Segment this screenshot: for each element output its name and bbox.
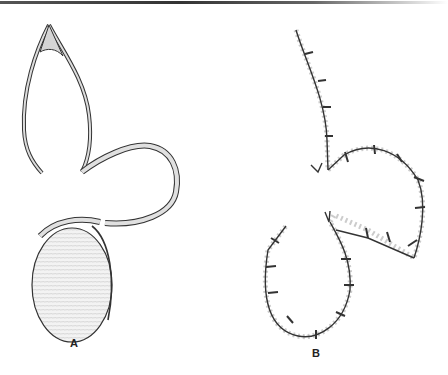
panel-b-drawing (265, 30, 425, 339)
panel-label-a: A (70, 337, 78, 349)
panel-label-b: B (312, 347, 320, 359)
panel-a-drawing (24, 25, 177, 342)
illustration (0, 0, 448, 375)
